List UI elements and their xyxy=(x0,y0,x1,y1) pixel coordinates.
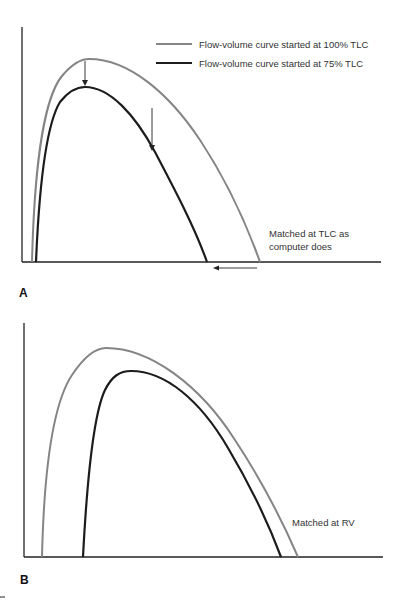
panel-b-annotation: Matched at RV xyxy=(292,517,355,528)
panel-a-down-arrow-peak xyxy=(82,61,88,86)
flow-volume-figure: Flow-volume curve started at 100% TLC Fl… xyxy=(0,0,402,602)
legend-label-75-tlc: Flow-volume curve started at 75% TLC xyxy=(199,58,363,69)
panel-a-annotation-line1: Matched at TLC as xyxy=(269,228,349,239)
panel-a-curve-100-tlc xyxy=(32,59,260,262)
panel-a-left-arrow xyxy=(213,266,257,271)
panel-b-label: B xyxy=(20,573,29,587)
legend: Flow-volume curve started at 100% TLC Fl… xyxy=(156,39,368,69)
legend-label-100-tlc: Flow-volume curve started at 100% TLC xyxy=(199,39,368,50)
panel-b: Matched at RV B xyxy=(20,323,383,587)
panel-a-label: A xyxy=(19,286,28,300)
panel-a-curve-75-tlc xyxy=(36,87,207,262)
panel-b-curve-100-tlc xyxy=(42,348,298,557)
panel-a-annotation-line2: computer does xyxy=(269,241,332,252)
panel-a: Flow-volume curve started at 100% TLC Fl… xyxy=(19,27,381,300)
